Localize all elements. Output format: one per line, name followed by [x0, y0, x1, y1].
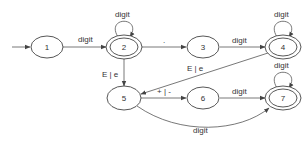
- edge-2-2-loop: digit: [115, 10, 133, 37]
- svg-text:6: 6: [201, 94, 206, 103]
- state-3: 3: [187, 36, 219, 58]
- state-7-accepting: 7: [265, 86, 301, 110]
- state-4-accepting: 4: [265, 35, 301, 59]
- state-2-accepting: 2: [106, 35, 142, 59]
- svg-text:7: 7: [281, 94, 286, 103]
- svg-text:digit: digit: [78, 35, 93, 44]
- state-1: 1: [31, 36, 63, 58]
- edge-5-7: digit: [137, 106, 269, 135]
- edge-6-7: digit: [220, 87, 265, 98]
- svg-text:digit: digit: [115, 10, 130, 19]
- state-6: 6: [187, 87, 219, 109]
- svg-text:digit: digit: [193, 126, 208, 135]
- svg-text:3: 3: [201, 43, 206, 52]
- svg-text:digit: digit: [274, 10, 289, 19]
- svg-text:digit: digit: [232, 36, 247, 45]
- svg-text:+ | -: + | -: [157, 87, 171, 96]
- svg-text:digit: digit: [274, 61, 289, 70]
- svg-text:digit: digit: [232, 87, 247, 96]
- edge-2-3: .: [142, 36, 186, 47]
- edge-3-4: digit: [220, 36, 265, 47]
- edge-7-7-loop: digit: [274, 61, 292, 88]
- svg-text:5: 5: [122, 94, 127, 103]
- svg-text:2: 2: [122, 43, 127, 52]
- svg-text:E | e: E | e: [187, 64, 204, 73]
- svg-text:1: 1: [45, 43, 50, 52]
- edge-4-4-loop: digit: [274, 10, 292, 37]
- svg-text:E | e: E | e: [102, 70, 119, 79]
- svg-text:4: 4: [281, 43, 286, 52]
- edge-5-6: + | -: [141, 87, 186, 98]
- state-5: 5: [107, 86, 141, 110]
- edge-1-2: digit: [63, 35, 106, 47]
- svg-text:.: .: [163, 36, 165, 45]
- edge-2-5: E | e: [102, 59, 124, 86]
- automaton-diagram: digit digit . digit digit E | e E | e + …: [0, 0, 305, 142]
